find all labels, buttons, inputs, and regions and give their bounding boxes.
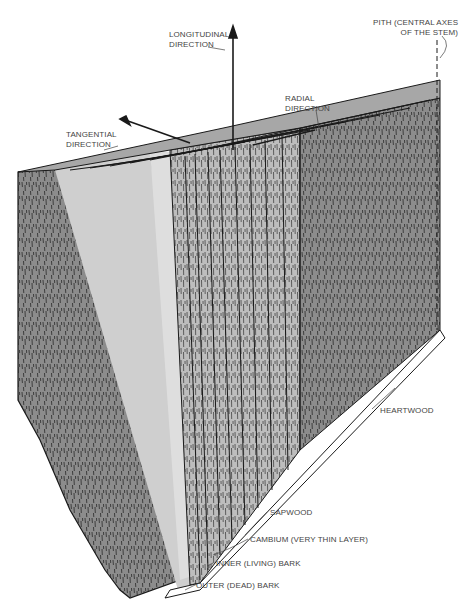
heartwood-face	[300, 98, 440, 450]
heartwood-label: HEARTWOOD	[380, 406, 434, 416]
tangential-direction-label: TANGENTIAL DIRECTION	[66, 130, 117, 150]
tangential-arrow	[128, 121, 190, 143]
pith-label: PITH (CENTRAL AXES OF THE STEM)	[373, 18, 458, 38]
label-line: DIRECTION	[169, 40, 229, 50]
label-line: PITH (CENTRAL AXES	[373, 18, 458, 28]
label-line: LONGITUDINAL	[169, 30, 229, 40]
wood-structure-diagram: LONGITUDINAL DIRECTION RADIAL DIRECTION …	[0, 0, 466, 613]
label-line: RADIAL	[285, 94, 330, 104]
sapwood-label: SAPWOOD	[270, 508, 312, 518]
label-line: DIRECTION	[285, 104, 330, 114]
inner-bark-label: INNER (LIVING) BARK	[216, 559, 301, 569]
label-line: TANGENTIAL	[66, 130, 117, 140]
label-line: OF THE STEM)	[373, 28, 458, 38]
longitudinal-direction-label: LONGITUDINAL DIRECTION	[169, 30, 229, 50]
radial-direction-label: RADIAL DIRECTION	[285, 94, 330, 114]
wood-block-illustration	[0, 0, 466, 613]
outer-bark-label: OUTER (DEAD) BARK	[196, 581, 280, 591]
label-line: DIRECTION	[66, 140, 117, 150]
cambium-label: CAMBIUM (VERY THIN LAYER)	[250, 535, 368, 545]
